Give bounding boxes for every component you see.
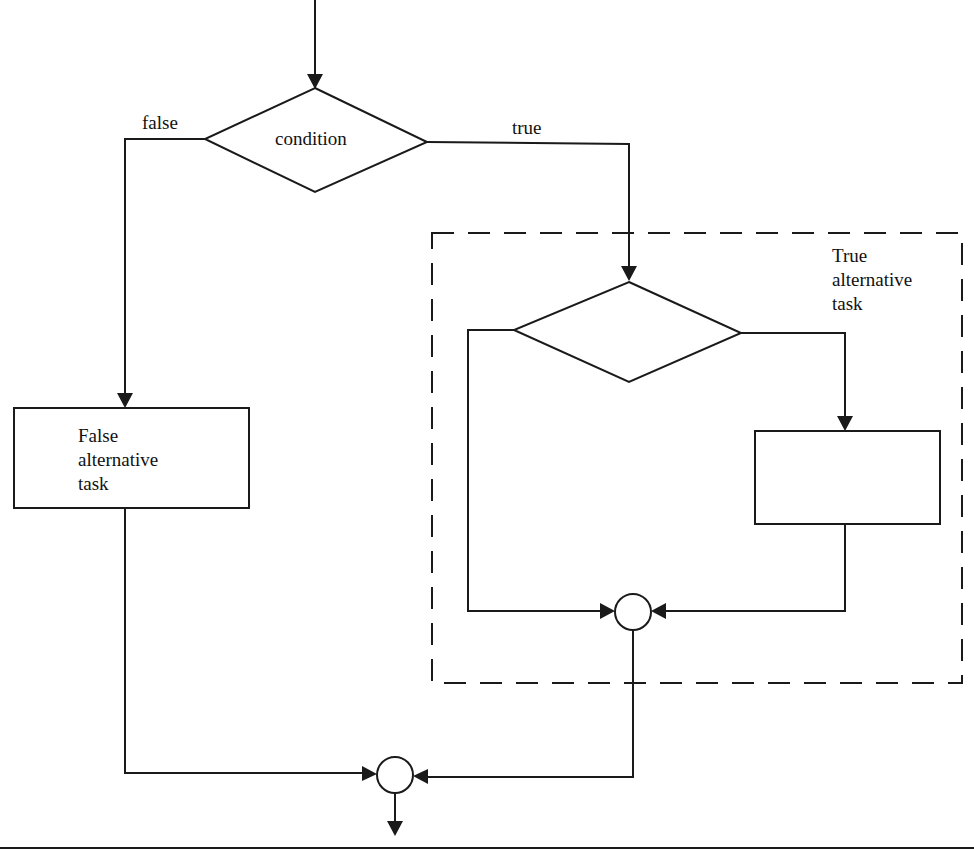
true-branch-connector	[427, 142, 637, 281]
true-branch-label: true	[512, 116, 542, 140]
exit-arrow	[387, 793, 403, 836]
false-task-label-line1: False	[78, 424, 158, 448]
false-task-label-line3: task	[78, 472, 158, 496]
entry-arrow	[307, 0, 323, 89]
outer-merge-connector	[377, 757, 413, 793]
false-task-label: False alternative task	[78, 424, 158, 496]
true-group-label: True alternative task	[832, 244, 912, 316]
inner-task-box	[755, 431, 940, 524]
inner-false-connector	[468, 330, 615, 619]
true-group-label-line3: task	[832, 292, 912, 316]
inner-merge-connector	[615, 594, 651, 630]
inner-merge-to-outer-merge-connector	[413, 630, 633, 784]
false-branch-label: false	[142, 111, 178, 135]
false-branch-connector	[117, 139, 205, 408]
inner-true-connector	[741, 333, 853, 431]
inner-task-to-merge-connector	[651, 524, 845, 619]
inner-condition-diamond	[514, 282, 741, 382]
condition-label: condition	[275, 127, 347, 151]
true-group-label-line2: alternative	[832, 268, 912, 292]
true-group-label-line1: True	[832, 244, 912, 268]
false-task-to-merge-connector	[125, 508, 377, 781]
false-task-label-line2: alternative	[78, 448, 158, 472]
